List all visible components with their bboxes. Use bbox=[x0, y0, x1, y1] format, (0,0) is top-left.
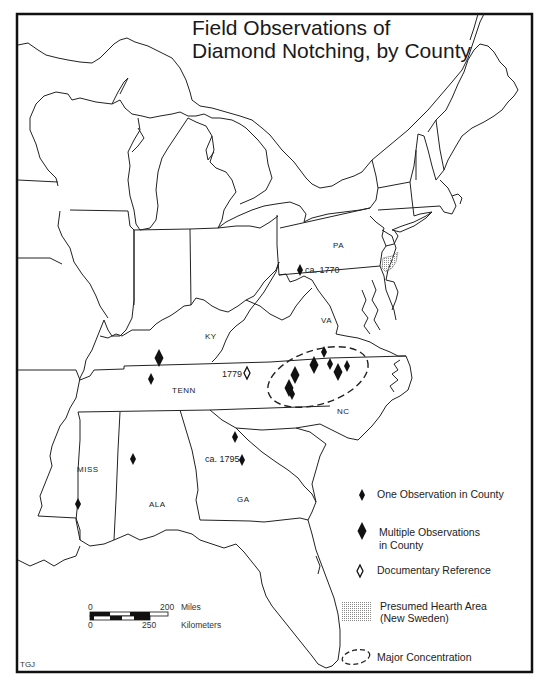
diamond-marker-small bbox=[297, 264, 303, 276]
state-label-va: VA bbox=[321, 316, 332, 325]
diamond-marker-large bbox=[155, 349, 164, 367]
documentary-reference-markers bbox=[244, 367, 250, 379]
diamond-marker-small bbox=[130, 453, 136, 465]
legend-documentary-icon bbox=[357, 565, 363, 577]
author-credit: TGJ bbox=[20, 660, 35, 669]
state-label-miss: MISS bbox=[77, 465, 99, 474]
state-label-ky: KY bbox=[205, 332, 217, 341]
legend-documentary-label: Documentary Reference bbox=[377, 564, 491, 576]
legend-single-icon bbox=[359, 489, 365, 501]
diamond-marker-small bbox=[344, 360, 350, 372]
legend-hearth-label-line2: (New Sweden) bbox=[380, 612, 449, 624]
state-label-nc: NC bbox=[337, 407, 350, 416]
scale-miles-unit: Miles bbox=[181, 602, 201, 612]
hearth-area bbox=[382, 252, 398, 272]
scale-bar: 0 200 Miles 0 250 Kilometers bbox=[88, 602, 221, 630]
annotation-ga-date: ca. 1795 bbox=[205, 454, 240, 464]
legend: One Observation in County Multiple Obser… bbox=[341, 488, 505, 667]
annotation-tenn-date: 1779 bbox=[222, 369, 242, 379]
state-label-ga: GA bbox=[237, 495, 250, 504]
scale-miles-zero: 0 bbox=[88, 602, 93, 612]
legend-concentration-icon bbox=[341, 647, 371, 667]
scale-km-max: 250 bbox=[142, 620, 156, 630]
scale-km-unit: Kilometers bbox=[181, 620, 221, 630]
diamond-marker-large bbox=[334, 363, 343, 381]
state-label-tenn: TENN bbox=[172, 386, 196, 395]
single-observation-markers bbox=[75, 264, 350, 510]
legend-concentration-label: Major Concentration bbox=[377, 651, 472, 663]
scale-km-zero: 0 bbox=[88, 620, 93, 630]
diamond-marker-small bbox=[327, 358, 333, 370]
diamond-marker-small bbox=[75, 498, 81, 510]
legend-hearth-label-line1: Presumed Hearth Area bbox=[380, 600, 487, 612]
diamond-marker-small bbox=[239, 454, 245, 466]
diamond-marker-large bbox=[291, 366, 300, 384]
scale-miles-max: 200 bbox=[160, 602, 174, 612]
annotation-pa-date: ca. 1770 bbox=[305, 265, 340, 275]
legend-hearth-swatch bbox=[342, 601, 372, 621]
map-canvas: PA VA KY TENN NC MISS ALA GA ca. 1770 17… bbox=[0, 0, 550, 689]
state-label-pa: PA bbox=[333, 241, 344, 250]
legend-multiple-label-line2: in County bbox=[379, 539, 424, 551]
legend-multiple-icon bbox=[358, 522, 367, 540]
diamond-marker-small bbox=[148, 373, 154, 385]
legend-single-label: One Observation in County bbox=[377, 488, 504, 500]
state-label-ala: ALA bbox=[149, 500, 166, 509]
legend-multiple-label-line1: Multiple Observations bbox=[379, 526, 480, 538]
diamond-marker-hollow bbox=[244, 367, 250, 379]
diamond-marker-small bbox=[232, 431, 238, 443]
